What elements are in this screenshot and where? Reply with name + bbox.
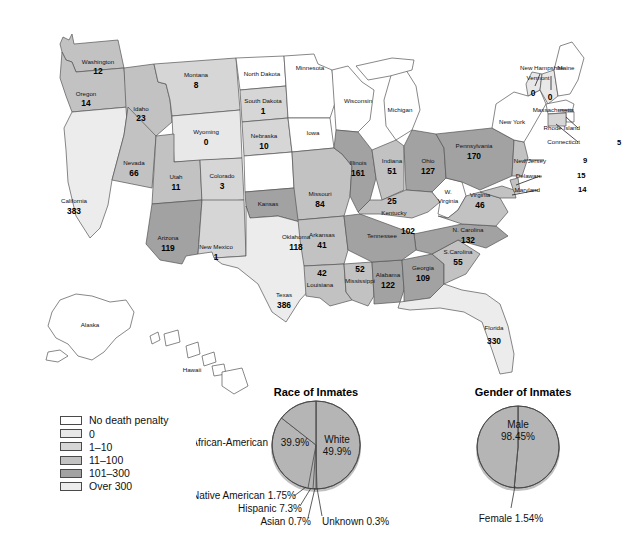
state-hawaii-4[interactable] bbox=[202, 352, 216, 366]
legend-label-none: No death penalty bbox=[89, 415, 168, 426]
value-washington: 12 bbox=[93, 66, 103, 76]
legend-item-1-10[interactable]: 1–10 bbox=[60, 440, 168, 453]
label-georgia: Georgia bbox=[412, 264, 435, 271]
label-colorado: Colorado bbox=[209, 172, 235, 179]
value-kentucky: 25 bbox=[387, 196, 397, 206]
label-indiana: Indiana bbox=[382, 157, 403, 164]
legend-label-101-300: 101–300 bbox=[89, 468, 130, 479]
value-nebraska: 10 bbox=[259, 141, 269, 151]
value-illinois: 161 bbox=[351, 168, 365, 178]
race-label-unknown: Unknown 0.3% bbox=[322, 516, 389, 527]
label-arizona: Arizona bbox=[158, 234, 180, 241]
label-ohio: Ohio bbox=[421, 157, 435, 164]
value-virginia: 46 bbox=[475, 200, 485, 210]
state-missouri[interactable] bbox=[292, 148, 352, 220]
label-pennsylvania: Pennsylvania bbox=[456, 142, 493, 149]
state-kansas[interactable] bbox=[244, 152, 294, 192]
race-pie-title: Race of Inmates bbox=[196, 386, 436, 398]
legend-label-11-100: 11–100 bbox=[89, 455, 123, 466]
value-connecticut: 5 bbox=[617, 138, 622, 147]
value-nevada: 66 bbox=[129, 168, 139, 178]
label-ncarolina: N. Carolina bbox=[453, 226, 485, 233]
label-louisiana: Louisiana bbox=[307, 281, 334, 288]
state-wyoming[interactable] bbox=[172, 110, 242, 162]
legend-swatch-zero bbox=[60, 429, 82, 438]
label-delaware: Delaware bbox=[516, 172, 543, 179]
legend-label-1-10: 1–10 bbox=[89, 442, 112, 453]
death-penalty-infographic: Washington 12 Oregon 14 Idaho 23 Montana… bbox=[0, 0, 639, 547]
value-alabama: 122 bbox=[381, 280, 395, 290]
state-michigan[interactable] bbox=[384, 70, 420, 140]
legend-swatch-101-300 bbox=[60, 469, 82, 478]
label-wvirginia-line2: Virginia bbox=[438, 197, 459, 204]
label-scarolina: S.Carolina bbox=[444, 248, 473, 255]
value-oklahoma: 118 bbox=[289, 242, 303, 252]
label-california: California bbox=[61, 197, 88, 204]
label-newhampshire: New Hampshire bbox=[520, 64, 565, 71]
legend-item-zero[interactable]: 0 bbox=[60, 427, 168, 440]
us-choropleth-map: Washington 12 Oregon 14 Idaho 23 Montana… bbox=[0, 0, 639, 400]
value-texas: 386 bbox=[277, 300, 291, 310]
state-southdakota[interactable] bbox=[240, 86, 288, 122]
label-nebraska: Nebraska bbox=[251, 132, 278, 139]
legend-item-no-death-penalty[interactable]: No death penalty bbox=[60, 414, 168, 427]
label-mississippi: Mississippi bbox=[345, 277, 375, 284]
legend-item-11-100[interactable]: 11–100 bbox=[60, 454, 168, 467]
race-pct-white: 49.9% bbox=[323, 446, 351, 457]
gender-pie-svg: Male 98.45% Female 1.54% bbox=[438, 398, 618, 543]
value-wyoming: 0 bbox=[204, 137, 209, 147]
value-georgia: 109 bbox=[416, 273, 430, 283]
value-california: 383 bbox=[67, 206, 81, 216]
label-hawaii: Hawaii bbox=[183, 366, 202, 373]
state-alaska-aleutians[interactable] bbox=[46, 350, 68, 362]
gender-pct-male: 98.45% bbox=[501, 431, 535, 442]
value-newhampshire: 0 bbox=[548, 92, 553, 102]
value-tennessee: 102 bbox=[401, 226, 415, 236]
value-newmexico: 1 bbox=[214, 252, 219, 262]
label-illinois: Illinois bbox=[349, 159, 366, 166]
label-kentucky: Kentucky bbox=[381, 209, 407, 216]
legend-swatch-11-100 bbox=[60, 456, 82, 465]
label-arkansas: Arkansas bbox=[309, 231, 335, 238]
value-scarolina: 55 bbox=[453, 257, 463, 267]
state-hawaii-2[interactable] bbox=[164, 330, 180, 346]
gender-pie-title: Gender of Inmates bbox=[438, 386, 608, 398]
label-wisconsin: Wisconsin bbox=[344, 97, 373, 104]
label-rhodeisland: Rhode Island bbox=[544, 124, 581, 131]
value-montana: 8 bbox=[194, 80, 199, 90]
race-pct-african-american: 39.9% bbox=[281, 437, 309, 448]
state-arizona[interactable] bbox=[146, 200, 202, 264]
label-washington: Washington bbox=[82, 58, 115, 65]
label-southdakota: South Dakota bbox=[244, 97, 282, 104]
label-maryland: Maryland bbox=[515, 186, 541, 193]
race-label-hispanic: Hispanic 7.3% bbox=[238, 503, 302, 514]
value-arizona: 119 bbox=[161, 243, 175, 253]
value-pennsylvania: 170 bbox=[467, 151, 481, 161]
label-utah: Utah bbox=[169, 173, 183, 180]
legend-item-101-300[interactable]: 101–300 bbox=[60, 467, 168, 480]
label-newyork: New York bbox=[499, 118, 526, 125]
value-louisiana: 42 bbox=[317, 268, 327, 278]
race-label-asian: Asian 0.7% bbox=[260, 516, 311, 527]
value-idaho: 23 bbox=[136, 113, 146, 123]
gender-label-female: Female 1.54% bbox=[479, 513, 544, 524]
state-hawaii-3[interactable] bbox=[186, 342, 200, 358]
race-pie-svg: White 49.9% 39.9% African-American Nativ… bbox=[196, 398, 436, 543]
race-label-african-american: African-American bbox=[196, 437, 268, 448]
state-hawaii-1[interactable] bbox=[150, 332, 160, 344]
value-vermont: 0 bbox=[531, 88, 536, 98]
label-alaska: Alaska bbox=[81, 321, 100, 328]
legend-item-over-300[interactable]: Over 300 bbox=[60, 480, 168, 493]
value-indiana: 51 bbox=[387, 166, 397, 176]
value-delaware: 15 bbox=[577, 171, 586, 180]
label-wyoming: Wyoming bbox=[193, 128, 219, 135]
value-newjersey: 9 bbox=[583, 156, 587, 165]
label-wvirginia-line1: W. bbox=[444, 188, 451, 195]
value-missouri: 84 bbox=[315, 199, 325, 209]
label-oregon: Oregon bbox=[76, 90, 97, 97]
label-iowa: Iowa bbox=[306, 129, 320, 136]
label-kansas: Kansas bbox=[258, 200, 279, 207]
value-southdakota: 1 bbox=[261, 106, 266, 116]
label-minnesota: Minnesota bbox=[296, 64, 325, 71]
label-montana: Montana bbox=[184, 71, 209, 78]
